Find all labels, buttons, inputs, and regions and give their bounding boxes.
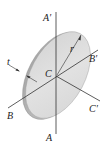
label-radius: r — [70, 43, 74, 54]
label-b: B — [7, 110, 13, 121]
label-c: C — [45, 68, 52, 79]
thickness-arrowhead-left — [16, 68, 21, 71]
label-a: A — [45, 132, 53, 143]
label-thickness: t — [7, 56, 10, 67]
disk-diagram: A′ A B B′ C C′ r t — [0, 0, 110, 144]
label-c-prime: C′ — [89, 103, 99, 114]
label-b-prime: B′ — [89, 53, 98, 64]
label-a-prime: A′ — [42, 12, 52, 23]
